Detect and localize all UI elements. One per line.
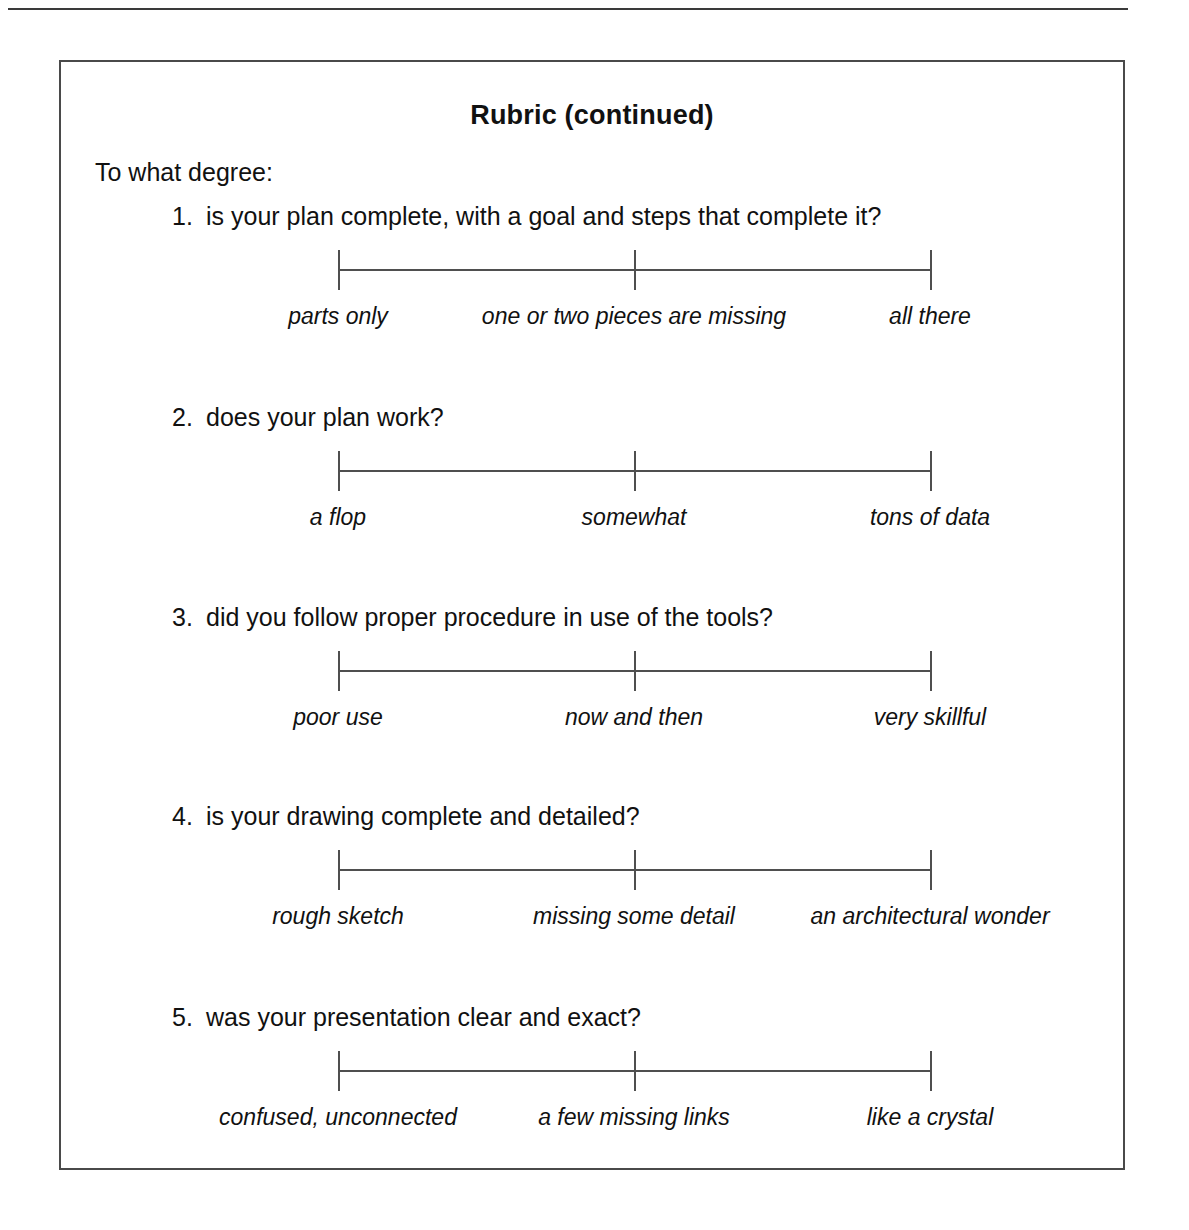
scale-anchor-right: like a crystal bbox=[867, 1104, 994, 1131]
rubric-item-number: 4. bbox=[172, 802, 206, 831]
scale-tick-right[interactable] bbox=[930, 1051, 932, 1091]
rating-scale[interactable] bbox=[61, 1051, 1123, 1105]
rubric-question-text: is your drawing complete and detailed? bbox=[206, 802, 640, 830]
lead-in-text: To what degree: bbox=[95, 158, 273, 187]
scale-anchor-center: a few missing links bbox=[538, 1104, 730, 1131]
page-title: Rubric (continued) bbox=[61, 100, 1123, 131]
scale-anchor-left: a flop bbox=[310, 504, 366, 531]
scale-anchor-center: one or two pieces are missing bbox=[482, 303, 786, 330]
scale-tick-right[interactable] bbox=[930, 651, 932, 691]
rubric-question-text: does your plan work? bbox=[206, 403, 444, 431]
top-divider-rule bbox=[8, 8, 1128, 10]
scale-tick-left[interactable] bbox=[338, 250, 340, 290]
scale-tick-center[interactable] bbox=[634, 651, 636, 691]
rubric-question-text: did you follow proper procedure in use o… bbox=[206, 603, 773, 631]
scale-anchor-right: all there bbox=[889, 303, 971, 330]
scale-anchor-left: confused, unconnected bbox=[219, 1104, 457, 1131]
scale-tick-center[interactable] bbox=[634, 850, 636, 890]
scale-anchor-labels: a flop somewhat tons of data bbox=[61, 504, 1123, 538]
rubric-question: 2.does your plan work? bbox=[172, 403, 444, 432]
scale-anchor-left: rough sketch bbox=[272, 903, 404, 930]
rating-scale[interactable] bbox=[61, 651, 1123, 705]
rating-scale[interactable] bbox=[61, 850, 1123, 904]
scale-anchor-center: somewhat bbox=[582, 504, 687, 531]
rubric-question-text: is your plan complete, with a goal and s… bbox=[206, 202, 881, 230]
scale-anchor-left: parts only bbox=[288, 303, 388, 330]
rubric-item-number: 2. bbox=[172, 403, 206, 432]
rubric-question: 5.was your presentation clear and exact? bbox=[172, 1003, 641, 1032]
scale-tick-left[interactable] bbox=[338, 451, 340, 491]
rubric-item-number: 3. bbox=[172, 603, 206, 632]
rubric-page-box: Rubric (continued) To what degree: 1.is … bbox=[59, 60, 1125, 1170]
rating-scale[interactable] bbox=[61, 250, 1123, 304]
scale-tick-right[interactable] bbox=[930, 250, 932, 290]
scale-tick-center[interactable] bbox=[634, 1051, 636, 1091]
scale-anchor-left: poor use bbox=[293, 704, 383, 731]
scale-anchor-labels: confused, unconnected a few missing link… bbox=[61, 1104, 1123, 1138]
scale-anchor-right: an architectural wonder bbox=[810, 903, 1049, 930]
scale-anchor-labels: rough sketch missing some detail an arch… bbox=[61, 903, 1123, 937]
scale-tick-center[interactable] bbox=[634, 250, 636, 290]
rubric-question: 1.is your plan complete, with a goal and… bbox=[172, 202, 881, 231]
scale-anchor-right: tons of data bbox=[870, 504, 990, 531]
scale-tick-left[interactable] bbox=[338, 651, 340, 691]
scale-anchor-center: now and then bbox=[565, 704, 703, 731]
scale-anchor-center: missing some detail bbox=[533, 903, 735, 930]
rubric-item-number: 5. bbox=[172, 1003, 206, 1032]
scale-tick-right[interactable] bbox=[930, 451, 932, 491]
scale-tick-left[interactable] bbox=[338, 850, 340, 890]
rating-scale[interactable] bbox=[61, 451, 1123, 505]
rubric-question-text: was your presentation clear and exact? bbox=[206, 1003, 641, 1031]
scale-tick-left[interactable] bbox=[338, 1051, 340, 1091]
scale-anchor-labels: poor use now and then very skillful bbox=[61, 704, 1123, 738]
rubric-question: 4.is your drawing complete and detailed? bbox=[172, 802, 640, 831]
rubric-question: 3.did you follow proper procedure in use… bbox=[172, 603, 773, 632]
rubric-item-number: 1. bbox=[172, 202, 206, 231]
scale-tick-right[interactable] bbox=[930, 850, 932, 890]
scale-anchor-right: very skillful bbox=[874, 704, 986, 731]
scale-tick-center[interactable] bbox=[634, 451, 636, 491]
scale-anchor-labels: parts only one or two pieces are missing… bbox=[61, 303, 1123, 337]
